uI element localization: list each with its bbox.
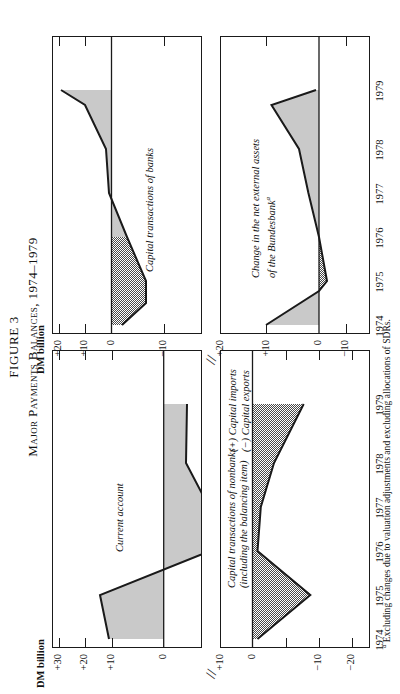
ytick-label-tr-2: 0 xyxy=(106,340,116,374)
unit-label-left: DM billion xyxy=(35,639,46,688)
ytick-label-tl-1: +20 xyxy=(79,654,89,688)
plot-current-account xyxy=(52,350,202,648)
rotated-page-wrapper: FIGURE 3 Major Payments Balances, 1974–1… xyxy=(0,0,400,694)
caption-bundesbank-text1: Change in the net external assets xyxy=(250,139,261,278)
panel-current-account: +30 +20 +10 0 Current account xyxy=(52,350,202,648)
caption-bundesbank-line2: of the Bundesbanka xyxy=(262,197,278,278)
plot-banks xyxy=(52,36,202,334)
caption-nonbanks-line2: (including the balancing item) xyxy=(238,461,250,588)
panel-nonbanks: +10 0 −10 −20 Capital transactions of no… xyxy=(220,350,370,648)
banks-svg xyxy=(53,36,202,333)
ytick-label-bl-1: 0 xyxy=(247,654,257,688)
ytick-label-tr-3: −10 xyxy=(158,340,168,374)
legend-capital-exports: (−) Capital exports xyxy=(239,370,252,452)
figure-number: FIGURE 3 xyxy=(6,0,22,694)
current-account-svg xyxy=(53,350,202,647)
ytick-label-bl-2: −10 xyxy=(313,654,323,688)
legend-capital-imports: (+) Capital imports xyxy=(226,369,239,452)
ytick-label-bl-0: +10 xyxy=(215,654,225,688)
ytick-label-br-2: 0 xyxy=(313,340,323,374)
ytick-label-br-0: +20 xyxy=(215,340,225,374)
ytick-label-tl-3: 0 xyxy=(158,654,168,688)
figure-sheet: FIGURE 3 Major Payments Balances, 1974–1… xyxy=(0,0,400,694)
ytick-label-tr-1: +10 xyxy=(79,340,89,374)
caption-bundesbank-line1: Change in the net external assets xyxy=(250,139,262,278)
left-column: DM billion +30 +20 +10 0 Current account xyxy=(52,350,370,648)
footnote-marker-text: a xyxy=(379,645,388,648)
ytick-label-br-3: −10 xyxy=(340,340,350,374)
right-column: DM billion xyxy=(52,36,370,334)
ytick-label-bl-3: −20 xyxy=(346,654,356,688)
footnote-text: Excluding changes due to valuation adjus… xyxy=(381,319,392,642)
plot-bundesbank xyxy=(220,36,370,334)
unit-label-right: DM billion xyxy=(35,325,46,374)
panel-banks: +20 +10 0 −10 Capital transactions of ba… xyxy=(52,36,202,334)
caption-bundesbank-text2: of the Bundesbank xyxy=(266,200,277,278)
panel-bundesbank: +20 +10 0 −10 Change in the net external… xyxy=(220,36,370,334)
caption-banks: Capital transactions of banks xyxy=(144,148,156,272)
ytick-label-br-1: +10 xyxy=(261,340,271,374)
caption-nonbanks-line1: Capital transactions of nonbanks xyxy=(226,448,238,588)
ytick-label-tl-0: +30 xyxy=(53,654,63,688)
ytick-label-tl-2: +10 xyxy=(106,654,116,688)
ytick-label-tr-0: +20 xyxy=(53,340,63,374)
figure-footnote: a Excluding changes due to valuation adj… xyxy=(378,8,392,648)
footnote-marker: a xyxy=(264,197,272,201)
bundesbank-svg xyxy=(221,36,370,333)
caption-current-account: Current account xyxy=(114,483,126,552)
